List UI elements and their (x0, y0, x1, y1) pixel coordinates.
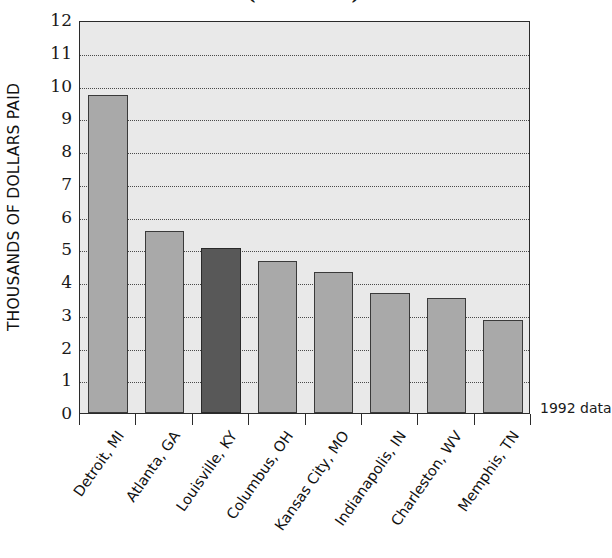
y-axis-tick-labels: 0123456789101112 (38, 0, 72, 558)
bar (314, 272, 353, 413)
y-tick-label: 8 (38, 143, 72, 160)
y-axis-title-text: THOUSANDS OF DOLLARS PAID (5, 83, 23, 331)
x-tick-mark (417, 414, 418, 425)
y-tick-label: 3 (38, 307, 72, 324)
bar (258, 261, 297, 413)
y-tick-label: 9 (38, 110, 72, 127)
chart-title-clipped: (continued) (0, 0, 607, 6)
bar (145, 231, 184, 413)
x-tick-mark (79, 414, 80, 425)
x-tick-mark (305, 414, 306, 425)
x-tick-mark (530, 414, 531, 425)
y-tick-label: 11 (38, 45, 72, 62)
chart-title: (continued) (0, 0, 607, 4)
bar (427, 298, 466, 413)
x-tick-mark (361, 414, 362, 425)
x-tick-label: Louisville, KY (173, 428, 240, 514)
bar (370, 293, 409, 413)
y-tick-label: 12 (38, 12, 72, 29)
bar (88, 95, 127, 413)
y-tick-label: 10 (38, 78, 72, 95)
y-tick-label: 2 (38, 340, 72, 357)
x-tick-label: Atlanta, GA (123, 428, 183, 505)
y-tick-label: 5 (38, 241, 72, 258)
x-tick-mark (248, 414, 249, 425)
plot-area (79, 21, 530, 414)
y-tick-label: 0 (38, 405, 72, 422)
x-tick-mark (474, 414, 475, 425)
y-tick-label: 6 (38, 209, 72, 226)
y-axis-title: THOUSANDS OF DOLLARS PAID (0, 0, 28, 414)
y-tick-label: 7 (38, 176, 72, 193)
x-tick-mark (135, 414, 136, 425)
bar (201, 248, 240, 413)
bar-series (80, 22, 529, 413)
data-year-annotation: 1992 data (540, 400, 612, 416)
x-tick-label: Detroit, MI (70, 428, 127, 499)
bar (483, 320, 522, 413)
x-tick-label: Memphis, TN (454, 428, 521, 515)
y-tick-label: 4 (38, 274, 72, 291)
y-tick-label: 1 (38, 372, 72, 389)
x-tick-mark (192, 414, 193, 425)
